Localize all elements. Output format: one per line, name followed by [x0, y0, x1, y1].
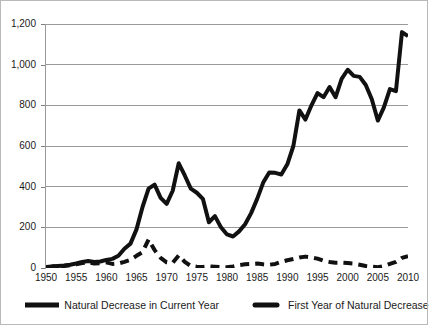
x-tick-label-1995: 1995	[306, 272, 328, 284]
y-tick-label-800: 800	[19, 100, 36, 110]
x-tick-label-2000: 2000	[337, 272, 359, 284]
x-tick-label-1955: 1955	[65, 272, 87, 284]
x-tick-label-1950: 1950	[35, 272, 57, 284]
legend-entry-1[interactable]: Natural Decrease in Current Year	[25, 299, 219, 311]
y-axis: 02004006008001,0001,200	[0, 0, 42, 292]
legend-swatch-dashed-icon	[249, 300, 283, 310]
y-tick-label-1000: 1,000	[11, 60, 36, 70]
plot-area	[46, 24, 408, 268]
y-tick-label-1200: 1,200	[11, 19, 36, 29]
x-tick-label-1970: 1970	[156, 272, 178, 284]
y-tick-label-600: 600	[19, 141, 36, 151]
x-tick-label-1985: 1985	[246, 272, 268, 284]
x-tick-label-2005: 2005	[367, 272, 389, 284]
legend-entry-2[interactable]: First Year of Natural Decrease	[249, 299, 429, 311]
legend-swatch-solid-icon	[25, 300, 59, 310]
x-tick-label-1990: 1990	[276, 272, 298, 284]
data-series	[46, 32, 408, 267]
y-tick-label-200: 200	[19, 222, 36, 232]
x-tick-label-2010: 2010	[397, 272, 419, 284]
y-tick-label-400: 400	[19, 182, 36, 192]
x-tick-label-1975: 1975	[186, 272, 208, 284]
plot-svg	[46, 24, 408, 268]
x-axis: 1950195519601965197019751980198519901995…	[46, 272, 408, 288]
series-line-1	[46, 32, 408, 267]
x-tick-label-1965: 1965	[125, 272, 147, 284]
legend-label-1: Natural Decrease in Current Year	[64, 299, 219, 311]
legend-label-2: First Year of Natural Decrease	[288, 299, 429, 311]
x-tick-label-1960: 1960	[95, 272, 117, 284]
chart-legend: Natural Decrease in Current YearFirst Ye…	[46, 296, 408, 314]
x-tick-label-1980: 1980	[216, 272, 238, 284]
